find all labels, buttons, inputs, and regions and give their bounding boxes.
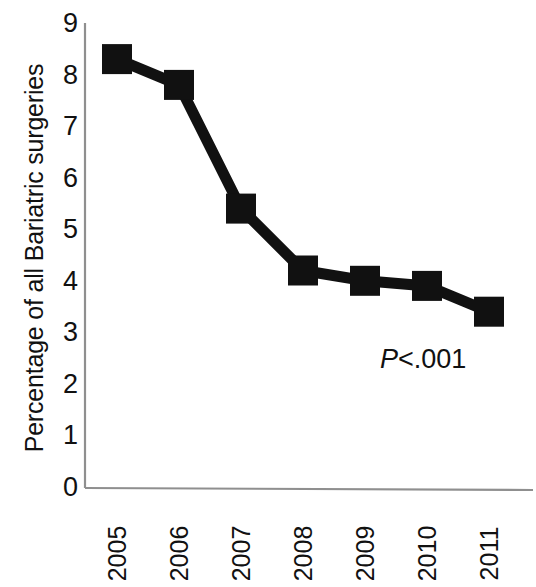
x-axis-line xyxy=(85,488,533,490)
data-point-marker xyxy=(102,44,132,74)
chart-figure: Percentage of all Bariatric surgeries 98… xyxy=(0,0,536,587)
x-tick-label: 2007 xyxy=(229,508,254,587)
x-axis-tick-labels: 2005200620072008200920102011 xyxy=(0,497,536,587)
data-point-marker xyxy=(288,256,318,286)
x-tick-label: 2010 xyxy=(415,508,440,587)
data-point-marker xyxy=(226,194,256,224)
p-value-symbol: P xyxy=(380,344,398,374)
data-point-marker xyxy=(474,297,504,327)
data-point-marker xyxy=(350,266,380,296)
data-point-marker xyxy=(164,70,194,100)
data-point-marker xyxy=(412,271,442,301)
x-tick-label: 2005 xyxy=(105,508,130,587)
x-tick-label: 2008 xyxy=(291,508,316,587)
p-value-text: <.001 xyxy=(398,344,466,374)
x-tick-label: 2011 xyxy=(477,508,502,587)
p-value-annotation: P<.001 xyxy=(380,346,466,373)
data-markers xyxy=(102,44,504,327)
x-tick-label: 2009 xyxy=(353,508,378,587)
x-tick-label: 2006 xyxy=(167,508,192,587)
